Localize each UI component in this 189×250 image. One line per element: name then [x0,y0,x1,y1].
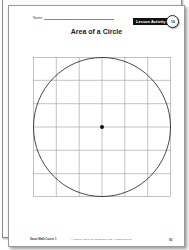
badge-number: 10 [166,15,179,28]
circle-on-grid-figure [33,57,171,197]
page-title: Area of a Circle [9,28,184,35]
footer-page-number: 93 [169,238,172,242]
name-label: Name [33,16,42,20]
lesson-activity-badge: Lesson Activity 10 [133,15,179,28]
worksheet-page: Name Lesson Activity 10 Area of a Circle [8,5,185,247]
center-dot [100,125,104,129]
grid-circle-svg [33,57,171,197]
badge-label: Lesson Activity [133,18,168,25]
footer-copyright: © Harcourt Achieve Inc. and Stephen Hake… [71,238,132,240]
page-footer: Saxon Math Course 1 © Harcourt Achieve I… [9,238,184,243]
name-field: Name [33,16,114,20]
footer-book-title: Saxon Math Course 1 [30,238,56,241]
name-line [44,16,114,20]
